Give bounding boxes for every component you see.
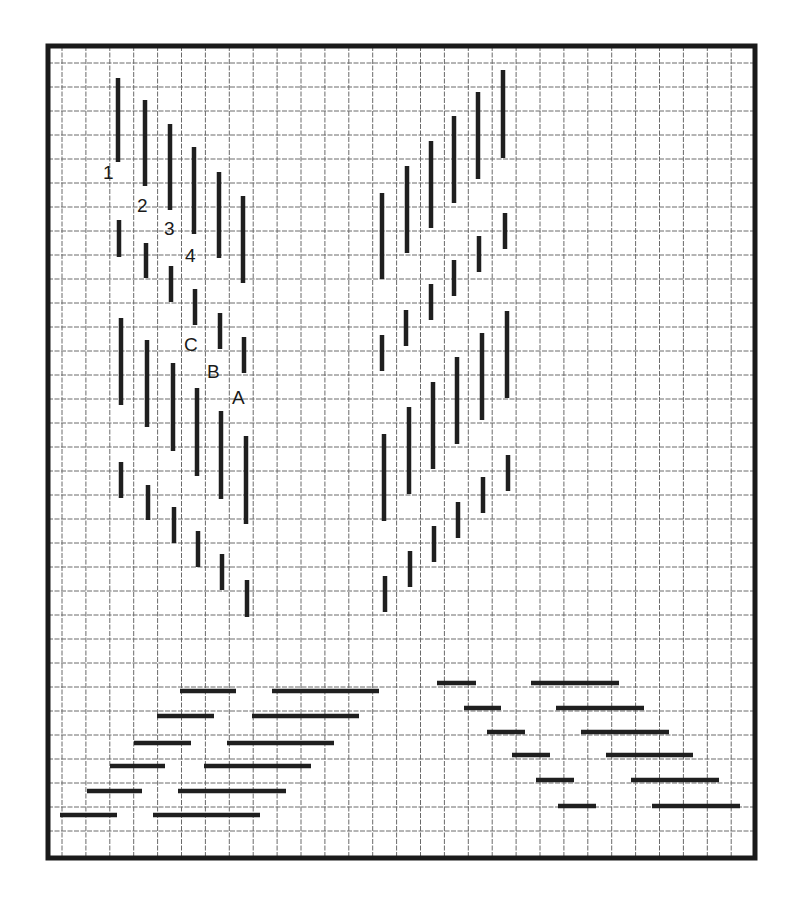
label-b: B bbox=[207, 361, 220, 382]
label-1: 1 bbox=[103, 162, 114, 183]
label-c: C bbox=[184, 334, 198, 355]
label-2: 2 bbox=[137, 195, 148, 216]
label-a: A bbox=[232, 387, 245, 408]
grid-diagram: 1234CBA bbox=[0, 0, 800, 906]
label-4: 4 bbox=[185, 245, 196, 266]
label-3: 3 bbox=[164, 218, 175, 239]
